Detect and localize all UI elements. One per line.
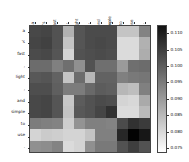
heatmap-cell xyxy=(41,118,52,129)
heatmap-cell xyxy=(106,37,117,48)
heatmap-cell xyxy=(41,72,52,83)
heatmap-cell xyxy=(106,129,117,140)
colorbar-tick-mark xyxy=(167,82,169,83)
heatmap-cell xyxy=(95,129,106,140)
heatmap-cell xyxy=(95,49,106,60)
heatmap-cell xyxy=(106,26,117,37)
heatmap-cell xyxy=(85,72,96,83)
heatmap-cell xyxy=(117,141,128,152)
heatmap-cell xyxy=(74,60,85,71)
heatmap-cell xyxy=(74,141,85,152)
heatmap-cell xyxy=(74,37,85,48)
colorbar-tick-labels: 0.1100.1050.1000.0950.0900.0850.0800.075 xyxy=(167,25,187,153)
heatmap-cell xyxy=(117,118,128,129)
heatmap-cell xyxy=(117,26,128,37)
heatmap-cell xyxy=(117,60,128,71)
colorbar-tick-mark xyxy=(167,99,169,100)
heatmap-cell xyxy=(30,118,41,129)
heatmap-cell xyxy=(128,95,139,106)
heatmap-cell xyxy=(41,26,52,37)
x-tick-mark xyxy=(101,22,102,24)
heatmap-cell xyxy=(30,37,41,48)
heatmap-cell xyxy=(52,60,63,71)
heatmap-cell xyxy=(128,72,139,83)
heatmap-cell xyxy=(30,72,41,83)
heatmap-cell xyxy=(52,49,63,60)
heatmap-cell xyxy=(128,37,139,48)
heatmap-cell xyxy=(74,49,85,60)
heatmap-cell xyxy=(41,95,52,106)
heatmap-cell xyxy=(106,83,117,94)
heatmap-cell xyxy=(117,37,128,48)
colorbar-gradient xyxy=(157,25,167,153)
y-tick-label: simple xyxy=(0,106,27,118)
heatmap-cell xyxy=(63,83,74,94)
y-tick-mark xyxy=(28,113,30,114)
heatmap-cell xyxy=(85,49,96,60)
heatmap-cell xyxy=(74,106,85,117)
heatmap-cell xyxy=(85,60,96,71)
y-tick-mark xyxy=(28,125,30,126)
colorbar: 0.1100.1050.1000.0950.0900.0850.0800.075 xyxy=(157,25,187,153)
heatmap-cell xyxy=(85,118,96,129)
heatmap-cell xyxy=(95,95,106,106)
y-axis-tick-labels: a'sfast,light,andsimpletouse. xyxy=(0,25,27,153)
heatmap-cell xyxy=(52,106,63,117)
y-tick-label: , xyxy=(0,60,27,72)
heatmap-cell xyxy=(106,141,117,152)
heatmap-cell xyxy=(63,37,74,48)
y-tick-mark xyxy=(28,90,30,91)
y-tick-label: a xyxy=(0,25,27,37)
heatmap-cell xyxy=(139,118,150,129)
heatmap-cell xyxy=(139,95,150,106)
y-tick-mark xyxy=(28,32,30,33)
y-tick-mark xyxy=(28,137,30,138)
y-tick-label: 's xyxy=(0,37,27,49)
x-tick-mark xyxy=(79,22,80,24)
heatmap-cell xyxy=(85,95,96,106)
heatmap-cell xyxy=(128,60,139,71)
heatmap-cell xyxy=(117,72,128,83)
y-tick-label: to xyxy=(0,118,27,130)
heatmap-cell xyxy=(139,26,150,37)
heatmap-cell xyxy=(106,49,117,60)
heatmap-cell xyxy=(41,60,52,71)
heatmap-cell xyxy=(117,129,128,140)
heatmap-cell xyxy=(128,26,139,37)
heatmap-cell xyxy=(74,95,85,106)
y-tick-label: and xyxy=(0,95,27,107)
heatmap-cell-grid xyxy=(30,26,150,152)
heatmap-cell xyxy=(128,129,139,140)
colorbar-tick-label: 0.100 xyxy=(171,64,183,68)
y-tick-label: light xyxy=(0,72,27,84)
heatmap-cell xyxy=(95,26,106,37)
heatmap-cell xyxy=(128,49,139,60)
heatmap-cell xyxy=(63,26,74,37)
heatmap-cell xyxy=(63,106,74,117)
heatmap-cell xyxy=(85,37,96,48)
heatmap-cell xyxy=(117,106,128,117)
y-tick-mark xyxy=(28,55,30,56)
heatmap-cell xyxy=(30,83,41,94)
heatmap-cell xyxy=(52,72,63,83)
y-tick-label: , xyxy=(0,83,27,95)
heatmap-cell xyxy=(52,95,63,106)
y-tick-label: . xyxy=(0,141,27,153)
heatmap-cell xyxy=(63,49,74,60)
heatmap-cell xyxy=(63,95,74,106)
x-tick-mark xyxy=(68,22,69,24)
x-tick-mark xyxy=(134,22,135,24)
heatmap-cell xyxy=(85,106,96,117)
x-tick-mark xyxy=(145,22,146,24)
x-tick-mark xyxy=(46,22,47,24)
heatmap-cell xyxy=(52,141,63,152)
heatmap-cell xyxy=(128,141,139,152)
heatmap-cell xyxy=(106,118,117,129)
x-tick-mark xyxy=(35,22,36,24)
heatmap-cell xyxy=(52,129,63,140)
x-tick-mark xyxy=(57,22,58,24)
heatmap-plot-area xyxy=(29,25,151,153)
heatmap-cell xyxy=(95,60,106,71)
y-tick-label: use xyxy=(0,130,27,142)
heatmap-cell xyxy=(128,106,139,117)
